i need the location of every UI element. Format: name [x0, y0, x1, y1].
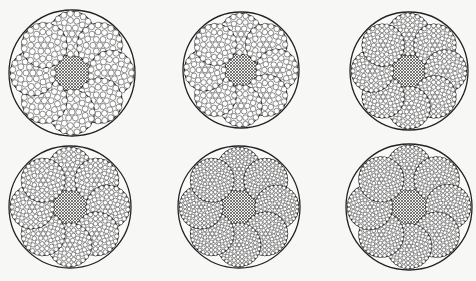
strand	[21, 158, 66, 203]
strand	[362, 24, 405, 67]
rope-1	[9, 10, 135, 136]
strand	[190, 158, 234, 202]
strand	[358, 156, 404, 202]
wire-rope-diagram	[0, 0, 476, 281]
rope-2	[183, 12, 299, 128]
diagram-canvas	[0, 0, 476, 281]
rope-3	[350, 12, 468, 130]
rope-6	[346, 144, 472, 270]
rope-4	[9, 146, 131, 268]
rope-5	[178, 146, 300, 268]
